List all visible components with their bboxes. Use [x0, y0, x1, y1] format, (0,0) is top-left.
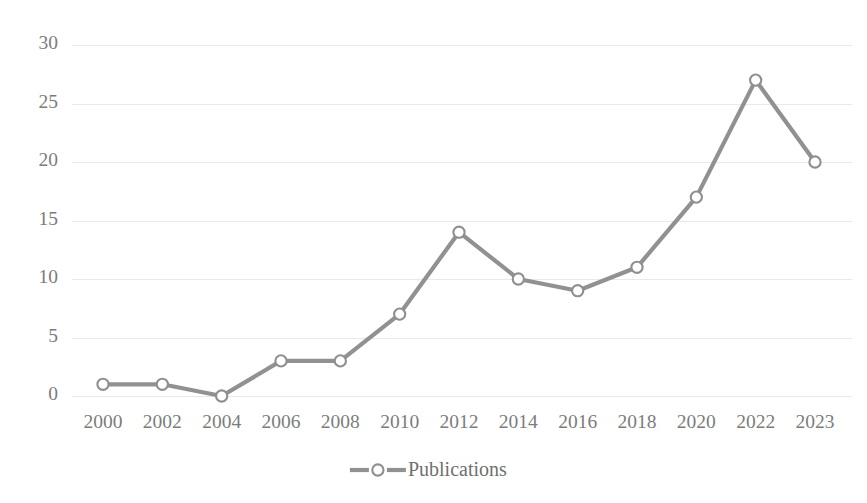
data-point-2016: [572, 285, 583, 296]
data-point-2000: [97, 379, 108, 390]
legend-label-publications: Publications: [408, 458, 507, 480]
x-tick-label-2016: 2016: [558, 411, 597, 432]
x-tick-label-2020: 2020: [677, 411, 716, 432]
y-tick-label-25: 25: [39, 91, 59, 112]
data-point-2012: [453, 227, 464, 238]
y-tick-label-0: 0: [48, 383, 58, 404]
x-tick-label-2000: 2000: [84, 411, 123, 432]
data-point-2002: [157, 379, 168, 390]
y-tick-label-30: 30: [39, 32, 59, 53]
y-tick-label-20: 20: [39, 149, 59, 170]
x-tick-label-2008: 2008: [321, 411, 360, 432]
x-tick-label-2022: 2022: [736, 411, 775, 432]
legend-open-circle-icon: [372, 464, 383, 475]
chart-canvas: 051015202530 200020022004200620082010201…: [0, 0, 867, 503]
data-point-2022: [750, 75, 761, 86]
data-point-2004: [216, 390, 227, 401]
data-point-2008: [335, 355, 346, 366]
data-point-2006: [275, 355, 286, 366]
x-tick-label-2004: 2004: [202, 411, 241, 432]
x-tick-label-2002: 2002: [143, 411, 182, 432]
y-tick-label-15: 15: [39, 208, 59, 229]
x-tick-label-2010: 2010: [380, 411, 419, 432]
x-tick-label-2014: 2014: [499, 411, 538, 432]
x-tick-label-2018: 2018: [618, 411, 657, 432]
y-tick-label-10: 10: [39, 266, 59, 287]
data-point-2018: [631, 262, 642, 273]
y-tick-label-5: 5: [48, 325, 58, 346]
data-point-2020: [691, 192, 702, 203]
data-point-2010: [394, 309, 405, 320]
data-point-2023: [809, 156, 820, 167]
line-chart-figure: 051015202530 200020022004200620082010201…: [0, 0, 867, 503]
data-point-2014: [513, 273, 524, 284]
x-tick-label-2023: 2023: [796, 411, 835, 432]
x-tick-label-2006: 2006: [262, 411, 301, 432]
x-tick-label-2012: 2012: [440, 411, 479, 432]
